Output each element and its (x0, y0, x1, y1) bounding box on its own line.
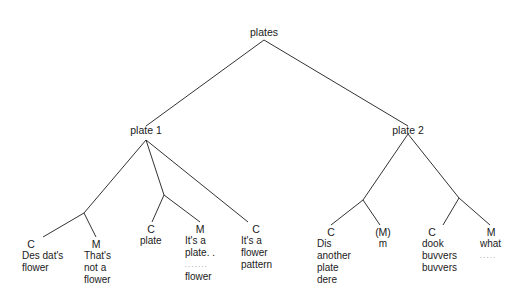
utterance-line: It's a (241, 235, 272, 247)
utterance-line: plate. . (185, 247, 215, 259)
edge-plate1-junctionB (146, 140, 164, 195)
utterance-line: buvvers (422, 262, 457, 274)
edge-junctionC-leaf1 (331, 200, 363, 225)
leaf-plate2-4: M what . . . . . (480, 226, 502, 262)
leaf-plate2-3: C dook buvvers buvvers (422, 226, 457, 274)
utterance-pause: . . . . . . . (185, 259, 215, 271)
utterance-line: It's a (185, 235, 215, 247)
edge-plate1-leaf5 (146, 140, 248, 222)
speaker-label: M (185, 223, 215, 235)
utterance-line: flower (185, 271, 215, 283)
utterance-line: plate (317, 262, 351, 274)
leaf-plate1-4: M It's a plate. . . . . . . . . flower (185, 223, 215, 283)
speaker-label: M (84, 238, 108, 250)
utterance-line: That's (84, 250, 111, 262)
leaf-plate1-5: C It's a flower pattern (241, 223, 272, 271)
utterance-line: another (317, 250, 351, 262)
edge-junctionB-leaf3 (152, 195, 164, 222)
utterance-line: Des dat's (22, 250, 63, 262)
leaf-plate1-3: C plate (140, 223, 162, 247)
edge-junctionB-leaf4 (164, 195, 200, 222)
speaker-label: (M) (374, 226, 392, 238)
edge-junctionC-leaf2 (363, 200, 380, 225)
utterance-line: Dis (317, 238, 351, 250)
speaker-label: C (317, 226, 345, 238)
branch-plate2-label: plate 2 (392, 124, 424, 136)
edge-junctionA-leaf1 (43, 213, 84, 237)
speaker-label: C (140, 223, 162, 235)
speaker-label: C (241, 223, 271, 235)
utterance-line: pattern (241, 259, 272, 271)
utterance-line: what (480, 238, 502, 250)
utterance-line: dook (422, 238, 457, 250)
edge-junctionD-leaf4 (459, 198, 490, 225)
utterance-line: plate (140, 235, 162, 247)
root-node-label: plates (250, 26, 278, 38)
utterance-pause: . . . . . (480, 250, 502, 262)
utterance-line: buvvers (422, 250, 457, 262)
utterance-line: m (374, 238, 392, 250)
speaker-label: M (480, 226, 502, 238)
speaker-label: C (422, 226, 442, 238)
leaf-plate2-2: (M) m (374, 226, 392, 250)
leaf-plate1-2: M That's not a flower (84, 238, 111, 286)
leaf-plate2-1: C Dis another plate dere (317, 226, 351, 286)
utterance-line: flower (84, 274, 111, 286)
edge-root-plate2 (264, 40, 408, 126)
utterance-line: dere (317, 274, 351, 286)
edge-plate1-junctionA (84, 140, 146, 213)
utterance-line: not a (84, 262, 111, 274)
utterance-line: flower (241, 247, 272, 259)
leaf-plate1-1: C Des dat's flower (22, 238, 63, 274)
edge-plate2-junctionC (363, 134, 408, 200)
speaker-label: C (22, 238, 40, 250)
edge-plate2-junctionD (408, 134, 459, 198)
edge-junctionD-leaf3 (443, 198, 459, 225)
edge-root-plate1 (146, 40, 264, 126)
edge-junctionA-leaf2 (84, 213, 96, 237)
branch-plate1-label: plate 1 (130, 124, 162, 136)
utterance-line: flower (22, 262, 63, 274)
